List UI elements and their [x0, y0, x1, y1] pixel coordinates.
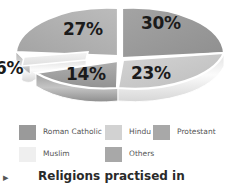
- legend-label: Roman Catholic: [43, 128, 102, 136]
- legend-label: Protestant: [177, 128, 216, 136]
- legend-item-hindu[interactable]: Hindu: [105, 122, 151, 142]
- chart-caption: ▸ Religions practised in: [0, 170, 232, 184]
- legend-item-protestant[interactable]: Protestant: [153, 122, 216, 142]
- legend-swatch-icon: [105, 125, 122, 140]
- legend-swatch-icon: [19, 125, 36, 140]
- caption-title: Religions practised in: [38, 170, 185, 182]
- legend-swatch-icon: [19, 147, 36, 162]
- pie-label-protestant: 14%: [66, 66, 106, 83]
- pie-svg: [0, 0, 232, 118]
- legend-row: Muslim Others: [0, 144, 232, 166]
- pie-chart-graphic: 30% 27% 23% 14% 6%: [0, 0, 232, 118]
- legend-swatch-icon: [153, 125, 170, 140]
- legend-label: Others: [129, 150, 154, 158]
- legend-label: Hindu: [129, 128, 151, 136]
- pie-label-hindu: 23%: [131, 65, 171, 82]
- legend-item-roman-catholic[interactable]: Roman Catholic: [19, 122, 102, 142]
- pie-label-muslim: 6%: [0, 60, 23, 77]
- legend-label: Muslim: [43, 150, 70, 158]
- pie-label-roman-catholic: 30%: [141, 15, 181, 32]
- pie-chart-figure: 30% 27% 23% 14% 6% Roman Catholic Hindu …: [0, 0, 232, 184]
- legend-item-muslim[interactable]: Muslim: [19, 144, 70, 164]
- legend-row: Roman Catholic Hindu Protestant: [0, 122, 232, 144]
- pie-label-others: 27%: [63, 21, 103, 38]
- chart-legend: Roman Catholic Hindu Protestant Muslim O…: [0, 120, 232, 168]
- legend-item-others[interactable]: Others: [105, 144, 154, 164]
- caption-bullet-icon: ▸: [3, 172, 9, 183]
- legend-swatch-icon: [105, 147, 122, 162]
